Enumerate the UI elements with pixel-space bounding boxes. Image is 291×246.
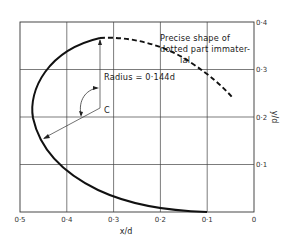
x-tick: 0·1	[202, 216, 213, 224]
annotation-line-2: dotted part immater-	[160, 44, 250, 54]
y-tick: 0·2	[256, 114, 267, 122]
x-tick-labels: 0·5 0·4 0·3 0·2 0·1 0	[14, 216, 256, 224]
y-axis-label: y/d	[270, 111, 279, 124]
arrowhead-icon	[93, 86, 99, 90]
arrowhead-icon	[98, 39, 102, 45]
x-tick: 0·2	[155, 216, 166, 224]
annotation-line-3: ial	[180, 55, 190, 65]
profile-diagram: 0·5 0·4 0·3 0·2 0·1 0 x/d 0·1 0·2 0·3 0·…	[0, 0, 291, 246]
radius-line-diagonal	[44, 108, 100, 138]
radius-label: Radius = 0·144d	[104, 72, 175, 82]
arrowhead-icon	[79, 111, 83, 117]
arrowhead-icon	[43, 134, 50, 139]
annotation-line-1: Precise shape of	[160, 33, 231, 43]
y-tick: 0·1	[256, 161, 267, 169]
y-tick: 0·4	[256, 19, 268, 27]
x-axis-label: x/d	[120, 227, 133, 236]
center-label: C	[104, 105, 110, 115]
x-tick: 0·3	[108, 216, 119, 224]
y-tick: 0·3	[256, 66, 267, 74]
x-tick: 0·4	[61, 216, 73, 224]
y-tick-labels: 0·1 0·2 0·3 0·4	[256, 19, 268, 170]
x-tick: 0·5	[14, 216, 25, 224]
x-tick: 0	[252, 216, 256, 224]
